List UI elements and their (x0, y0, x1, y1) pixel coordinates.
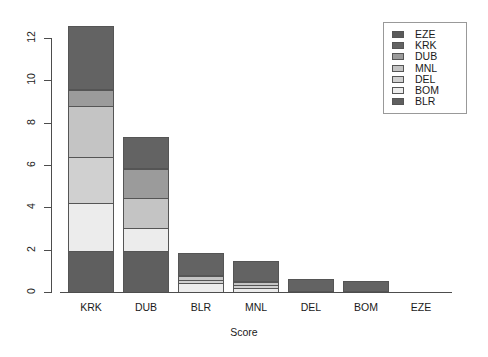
y-axis-tick (44, 250, 51, 251)
bar-segment-krk[interactable] (178, 253, 224, 276)
bar-segment-krk[interactable] (233, 261, 279, 282)
bar-segment-dub[interactable] (123, 169, 169, 199)
bar-segment-dub[interactable] (68, 90, 114, 107)
x-axis-line (60, 292, 452, 293)
x-axis-tick-label-mnl: MNL (233, 301, 279, 313)
stacked-bar[interactable] (123, 137, 169, 292)
legend-item-dub[interactable]: DUB (392, 51, 459, 62)
stacked-bar[interactable] (288, 279, 334, 292)
stacked-bar[interactable] (233, 261, 279, 292)
y-axis-tick-label: 2 (22, 244, 40, 254)
stacked-bar[interactable] (343, 281, 389, 292)
bar-segment-krk[interactable] (343, 281, 389, 292)
legend-swatch-del (392, 76, 404, 83)
x-axis-tick-label-dub: DUB (123, 301, 169, 313)
stacked-bar-chart: 024681012 KRKDUBBLRMNLDELBOMEZE Score EZ… (0, 0, 488, 357)
legend-label-dub: DUB (415, 51, 437, 62)
stacked-bar[interactable] (178, 253, 224, 292)
y-axis-tick (44, 38, 51, 39)
x-axis-title: Score (0, 326, 488, 338)
y-axis-tick-label-text: 2 (26, 246, 36, 252)
y-axis-tick-label-text: 8 (26, 119, 36, 125)
bar-segment-blr[interactable] (123, 251, 169, 293)
x-axis-tick-label-bom: BOM (343, 301, 389, 313)
bar-segment-mnl[interactable] (68, 106, 114, 159)
legend-swatch-krk (392, 42, 404, 49)
stacked-bar[interactable] (68, 26, 114, 292)
y-axis-tick-label-text: 0 (26, 288, 36, 294)
bar-segment-krk[interactable] (68, 26, 114, 90)
legend-label-blr: BLR (415, 96, 435, 107)
x-axis-tick-label-del: DEL (288, 301, 334, 313)
legend-swatch-dub (392, 53, 404, 60)
y-axis-tick-label: 0 (22, 286, 40, 296)
y-axis-tick (44, 123, 51, 124)
legend-swatch-bom (392, 87, 404, 94)
legend-swatch-mnl (392, 65, 404, 72)
y-axis-tick (44, 165, 51, 166)
y-axis-tick-label-text: 10 (26, 73, 36, 85)
y-axis-tick-label-text: 6 (26, 161, 36, 167)
y-axis-tick-label-text: 4 (26, 203, 36, 209)
legend-swatch-blr (392, 98, 404, 105)
y-axis-tick-label-text: 12 (26, 31, 36, 43)
bar-segment-krk[interactable] (123, 137, 169, 169)
y-axis-tick-label: 10 (22, 74, 40, 84)
y-axis-tick-label: 8 (22, 117, 40, 127)
bar-segment-blr[interactable] (68, 251, 114, 293)
y-axis-tick-label: 4 (22, 201, 40, 211)
legend: EZEKRKDUBMNLDELBOMBLR (383, 22, 467, 114)
legend-item-blr[interactable]: BLR (392, 96, 459, 107)
bar-segment-bom[interactable] (68, 203, 114, 252)
y-axis-tick-label: 12 (22, 32, 40, 42)
bar-segment-krk[interactable] (288, 279, 334, 292)
y-axis-tick (44, 292, 51, 293)
bar-segment-del[interactable] (68, 157, 114, 204)
legend-swatch-eze (392, 31, 404, 38)
x-axis-tick-label-blr: BLR (178, 301, 224, 313)
y-axis-tick (44, 207, 51, 208)
x-axis-tick-label-eze: EZE (398, 301, 444, 313)
bar-segment-mnl[interactable] (123, 198, 169, 230)
x-axis-tick-label-krk: KRK (68, 301, 114, 313)
y-axis-tick (44, 80, 51, 81)
bar-segment-bom[interactable] (123, 228, 169, 251)
y-axis-tick-label: 6 (22, 159, 40, 169)
legend-label-mnl: MNL (415, 63, 437, 74)
